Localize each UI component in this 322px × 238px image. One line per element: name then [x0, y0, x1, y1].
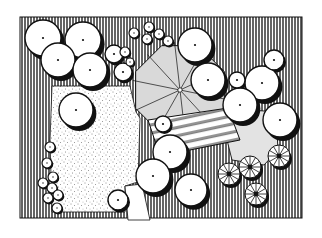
palm-trunk	[254, 192, 259, 197]
tree-trunk-dot	[273, 59, 275, 61]
tree-trunk-dot	[261, 82, 263, 84]
shrub-dot	[148, 26, 149, 27]
shrub-dot	[42, 182, 43, 183]
tree-trunk-dot	[279, 119, 281, 121]
tree-trunk-dot	[122, 71, 124, 73]
tree-trunk-dot	[239, 104, 241, 106]
shrub-dot	[52, 176, 53, 177]
tree-trunk-dot	[169, 151, 171, 153]
shrub-dot	[133, 32, 134, 33]
shrub-dot	[124, 51, 125, 52]
palm-trunk	[248, 165, 253, 170]
tree-trunk-dot	[57, 59, 59, 61]
shrub-dot	[47, 197, 48, 198]
tree-trunk-dot	[89, 69, 91, 71]
shrub-dot	[46, 162, 47, 163]
tree-trunk-dot	[82, 39, 84, 41]
shrub-dot	[49, 146, 50, 147]
tree-trunk-dot	[194, 44, 196, 46]
tree-trunk-dot	[207, 79, 209, 81]
tree-trunk-dot	[113, 53, 115, 55]
tree-trunk-dot	[152, 175, 154, 177]
tree-trunk-dot	[236, 79, 238, 81]
palm-trunk	[277, 154, 282, 159]
terrace-center-marker	[178, 88, 182, 92]
tree-trunk-dot	[162, 123, 164, 125]
shrub-dot	[56, 207, 57, 208]
shrub-dot	[57, 194, 58, 195]
tree-trunk-dot	[190, 189, 192, 191]
shrub-dot	[51, 187, 52, 188]
palm-trunk	[227, 172, 232, 177]
shrub-dot	[167, 40, 168, 41]
shrub-dot	[146, 38, 147, 39]
landscape-site-plan	[0, 0, 322, 238]
tree-trunk-dot	[42, 37, 44, 39]
tree-trunk-dot	[75, 109, 77, 111]
shrub-dot	[129, 61, 130, 62]
tree-trunk-dot	[117, 199, 119, 201]
shrub-dot	[158, 33, 159, 34]
